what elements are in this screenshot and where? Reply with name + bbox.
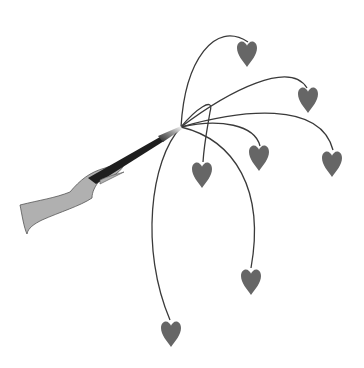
- illustration-canvas: [0, 0, 364, 368]
- wand-tip-glow: [158, 126, 182, 142]
- heart-icon: [298, 88, 318, 113]
- wand: [88, 137, 164, 184]
- heart-icon: [161, 322, 181, 347]
- heart-icon: [241, 270, 261, 295]
- heart-icon: [249, 146, 269, 171]
- heart-icon: [192, 163, 212, 188]
- heart-icon: [322, 152, 342, 177]
- heart-icon: [237, 42, 257, 67]
- hearts: [161, 42, 342, 347]
- wand-hearts-illustration: [0, 0, 364, 368]
